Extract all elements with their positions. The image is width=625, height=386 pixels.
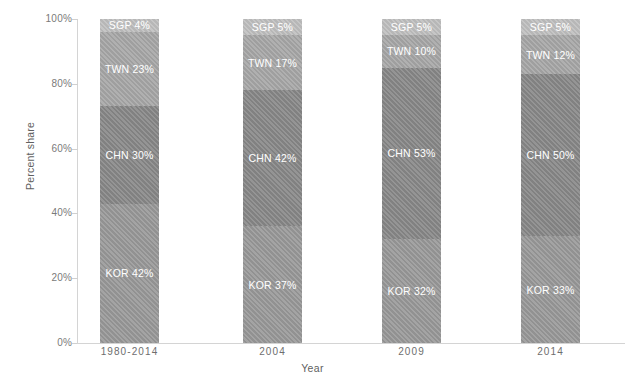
bar-segment-label: CHN 50%	[526, 149, 574, 161]
bar-segment-sgp[interactable]: SGP 4%	[100, 19, 159, 32]
bar-segment-chn[interactable]: CHN 53%	[382, 68, 441, 240]
bar-segment-sgp[interactable]: SGP 5%	[243, 19, 302, 35]
plot-area: SGP 4% TWN 23% CHN 30% KOR 42% S	[0, 0, 625, 386]
bar-segment-label: SGP 5%	[252, 21, 293, 33]
bar-segment-label: CHN 30%	[105, 149, 153, 161]
bar-segment-kor[interactable]: KOR 42%	[100, 204, 159, 343]
bar-segment-kor[interactable]: KOR 33%	[521, 236, 580, 343]
bar-segment-sgp[interactable]: SGP 5%	[521, 19, 580, 35]
bar-segment-label: CHN 42%	[248, 152, 296, 164]
bar-segment-chn[interactable]: CHN 30%	[100, 106, 159, 203]
bar-segment-twn[interactable]: TWN 17%	[243, 35, 302, 90]
table-row[interactable]: SGP 5% TWN 12% CHN 50% KOR 33%	[521, 19, 580, 343]
bar-segment-label: TWN 12%	[526, 49, 575, 61]
bar-segment-label: SGP 4%	[109, 19, 150, 31]
bar-segment-label: CHN 53%	[387, 147, 435, 159]
bar-segment-twn[interactable]: TWN 10%	[382, 35, 441, 67]
bar-segment-label: SGP 5%	[530, 21, 571, 33]
bar-segment-label: KOR 42%	[105, 267, 153, 279]
table-row[interactable]: SGP 4% TWN 23% CHN 30% KOR 42%	[100, 19, 159, 343]
bar-segment-chn[interactable]: CHN 50%	[521, 74, 580, 236]
bar-segment-label: TWN 23%	[105, 63, 154, 75]
bar-segment-kor[interactable]: KOR 37%	[243, 226, 302, 343]
x-tick-label-0: 1980-2014	[60, 346, 200, 357]
x-tick-label-2: 2009	[342, 346, 482, 357]
bar-segment-kor[interactable]: KOR 32%	[382, 239, 441, 343]
table-row[interactable]: SGP 5% TWN 17% CHN 42% KOR 37%	[243, 19, 302, 343]
bar-segment-chn[interactable]: CHN 42%	[243, 90, 302, 226]
bar-segment-twn[interactable]: TWN 12%	[521, 35, 580, 74]
bar-segment-label: KOR 37%	[248, 279, 296, 291]
bar-segment-label: SGP 5%	[391, 21, 432, 33]
stacked-bar-chart: Percent share Year 100% 80% 60% 40% 20% …	[0, 0, 625, 386]
bar-segment-sgp[interactable]: SGP 5%	[382, 19, 441, 35]
bar-segment-label: TWN 10%	[387, 45, 436, 57]
bar-segment-label: KOR 33%	[526, 284, 574, 296]
bar-segment-label: KOR 32%	[387, 285, 435, 297]
x-tick-label-1: 2004	[203, 346, 343, 357]
table-row[interactable]: SGP 5% TWN 10% CHN 53% KOR 32%	[382, 19, 441, 343]
x-tick-label-3: 2014	[481, 346, 621, 357]
bar-segment-twn[interactable]: TWN 23%	[100, 32, 159, 107]
bar-segment-label: TWN 17%	[248, 57, 297, 69]
